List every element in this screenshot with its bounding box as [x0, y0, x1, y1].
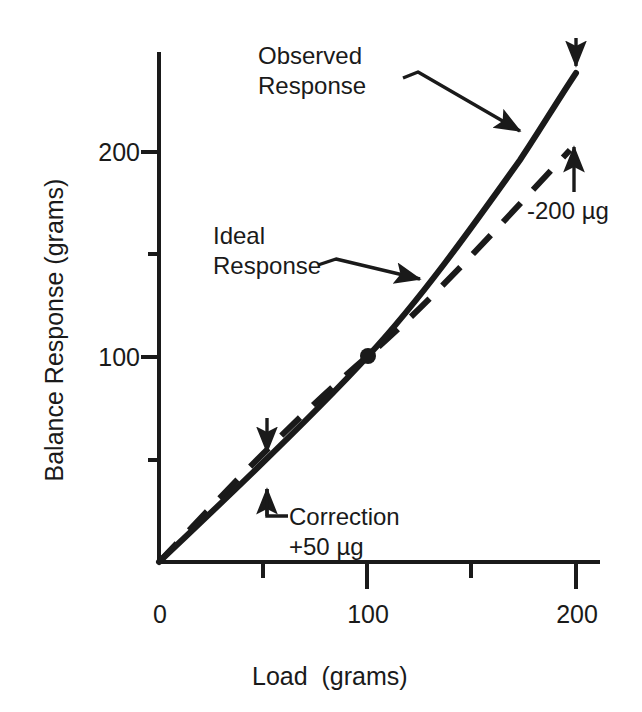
- correction-label-line1: Correction: [289, 503, 400, 531]
- y-tick-label-100: 100: [98, 343, 140, 373]
- chart-canvas: [0, 0, 642, 712]
- minus-200-label: -200 µg: [527, 197, 609, 225]
- x-tick-label-200: 200: [549, 600, 605, 630]
- x-tick-label-100: 100: [340, 600, 396, 630]
- y-axis-title: Balance Response (grams): [40, 179, 69, 482]
- observed-response-leader: [403, 72, 520, 131]
- ideal-response-leader: [318, 259, 420, 279]
- correction-label-line2: +50 µg: [289, 533, 364, 561]
- axis-lines: [159, 52, 600, 562]
- chart-figure: 200 100 0 100 200 Load (grams) Balance R…: [0, 0, 642, 712]
- data-point-marker-100-100: [360, 348, 376, 364]
- y-axis-title-wrapper: Balance Response (grams): [40, 100, 80, 560]
- y-axis-ticks: [141, 152, 159, 460]
- observed-response-label-line1: Observed: [258, 42, 362, 70]
- x-tick-label-0: 0: [148, 600, 172, 630]
- ideal-response-label-line2: Response: [213, 252, 321, 280]
- correction-up-arrow-leader: [267, 489, 288, 516]
- x-axis-title: Load (grams): [252, 662, 408, 692]
- series-observed-response: [159, 73, 576, 562]
- observed-response-label-line2: Response: [258, 72, 366, 100]
- x-axis-ticks: [263, 562, 576, 589]
- ideal-response-label-line1: Ideal: [213, 222, 265, 250]
- y-tick-label-200: 200: [98, 138, 140, 168]
